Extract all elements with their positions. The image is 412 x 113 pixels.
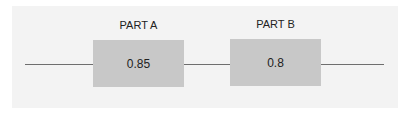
- input-line: [25, 64, 93, 65]
- part-b-value: 0.8: [267, 56, 284, 70]
- part-b-block: 0.8: [230, 39, 321, 86]
- diagram-background: [12, 6, 398, 108]
- connector-line: [184, 64, 230, 65]
- part-b-label: PART B: [230, 18, 321, 30]
- part-a-block: 0.85: [93, 40, 184, 87]
- part-a-value: 0.85: [127, 57, 150, 71]
- part-a-label: PART A: [93, 19, 184, 31]
- output-line: [321, 64, 384, 65]
